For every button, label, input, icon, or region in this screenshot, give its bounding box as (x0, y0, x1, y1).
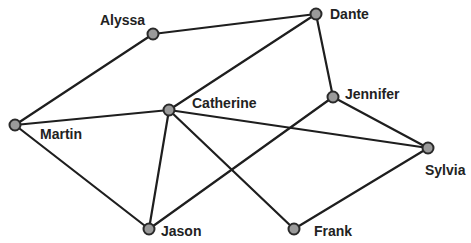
node-jason (144, 224, 155, 235)
node-catherine (164, 105, 175, 116)
node-label-sylvia: Sylvia (425, 162, 466, 178)
node-label-frank: Frank (314, 223, 352, 239)
edge-catherine-jason (149, 110, 169, 229)
node-frank (289, 224, 300, 235)
node-label-jason: Jason (161, 223, 201, 239)
node-dante (311, 9, 322, 20)
edge-martin-jason (15, 125, 149, 229)
node-label-alyssa: Alyssa (100, 12, 145, 28)
node-label-catherine: Catherine (192, 95, 257, 111)
edge-martin-catherine (15, 110, 169, 125)
node-martin (10, 120, 21, 131)
edge-sylvia-frank (294, 148, 428, 229)
nodes-layer (10, 9, 434, 235)
edge-catherine-sylvia (169, 110, 428, 148)
network-diagram: AlyssaDanteCatherineJenniferMartinSylvia… (0, 0, 471, 243)
edges-layer (15, 14, 428, 229)
node-alyssa (148, 29, 159, 40)
node-jennifer (328, 92, 339, 103)
node-label-martin: Martin (40, 126, 82, 142)
edge-dante-jennifer (316, 14, 333, 97)
node-label-jennifer: Jennifer (345, 86, 400, 102)
node-label-dante: Dante (330, 6, 369, 22)
node-sylvia (423, 143, 434, 154)
edge-alyssa-martin (15, 34, 153, 125)
